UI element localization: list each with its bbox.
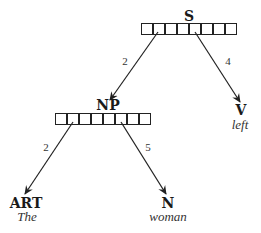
edge-np-n: 5 [121, 122, 166, 194]
slot-box [214, 24, 225, 35]
node-v-label: V [235, 102, 248, 118]
edge-np-n-label: 5 [145, 141, 151, 153]
slot-box [142, 24, 153, 35]
edge-np-art-label: 2 [43, 141, 49, 153]
node-np-label: NP [96, 97, 120, 113]
arrow-line [25, 122, 73, 194]
node-np-box-array [56, 114, 151, 125]
node-v-word: left [232, 117, 249, 132]
edge-s-v-label: 4 [225, 55, 231, 67]
node-n-word: woman [149, 209, 187, 224]
node-v: V left [232, 102, 249, 132]
parse-tree-diagram: S 2 4 V left NP [0, 0, 261, 233]
slot-box [154, 24, 165, 35]
arrow-line [195, 32, 240, 102]
node-s: S [142, 8, 237, 35]
node-art: ART The [9, 195, 43, 224]
arrow-line [110, 32, 158, 100]
slot-box [92, 114, 103, 125]
edge-s-v: 4 [195, 32, 240, 102]
slot-box [178, 24, 189, 35]
edge-s-np-label: 2 [122, 55, 128, 67]
slot-box [202, 24, 213, 35]
slot-box [56, 114, 67, 125]
slot-box [140, 114, 151, 125]
node-n: N woman [149, 195, 187, 224]
edge-s-np: 2 [110, 32, 158, 100]
slot-box [80, 114, 91, 125]
node-art-word: The [17, 209, 37, 224]
node-np: NP [56, 97, 151, 125]
arrow-line [121, 122, 166, 194]
slot-box [128, 114, 139, 125]
slot-box [226, 24, 237, 35]
edge-np-art: 2 [25, 122, 73, 194]
node-s-box-array [142, 24, 237, 35]
node-s-label: S [184, 8, 194, 24]
slot-box [104, 114, 115, 125]
slot-box [166, 24, 177, 35]
